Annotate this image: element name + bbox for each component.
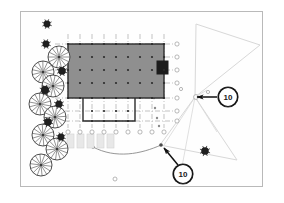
grid-bubble-bottom-6[interactable]: [138, 130, 142, 134]
grid-bubble-right-6[interactable]: [175, 119, 179, 123]
grid-bubble-bottom-5[interactable]: [126, 130, 130, 134]
column-node-3-0: [103, 43, 105, 45]
building-lower-extension: [83, 98, 135, 121]
callout-lower[interactable]: 10: [164, 148, 194, 185]
column-node-8-1: [163, 56, 165, 58]
column-node-5-2: [127, 69, 129, 71]
grid-bubble-right-4[interactable]: [175, 96, 179, 100]
callout-group[interactable]: 1010: [164, 86, 239, 184]
column-node-ext-2-1: [91, 120, 93, 122]
column-node-0-2: [67, 69, 69, 71]
column-node-5-3: [127, 82, 129, 84]
column-node-5-0: [127, 43, 129, 45]
column-node-3-3: [103, 82, 105, 84]
grid-bubble-bottom-2[interactable]: [90, 130, 94, 134]
tree-symbol-7: [30, 154, 52, 176]
drawing-canvas[interactable]: 1010: [21, 12, 262, 186]
column-node-0-3: [67, 82, 69, 84]
column-node-2-4: [91, 97, 93, 99]
column-node-2-1: [91, 56, 93, 58]
survey-guide-line-2: [195, 97, 217, 132]
column-node-3-2: [103, 69, 105, 71]
tree-trunk-7: [40, 164, 43, 167]
callout-upper[interactable]: 10: [197, 86, 239, 107]
site-plan-vector[interactable]: 1010: [21, 12, 262, 186]
grid-bubble-right-2[interactable]: [175, 68, 179, 72]
grid-bubble-right-3[interactable]: [175, 81, 179, 85]
column-node-4-3: [115, 82, 117, 84]
survey-point-6: [158, 125, 160, 127]
site-furniture-item-3: [97, 134, 104, 148]
callout-lower-leader-arrow: [164, 148, 178, 165]
column-node-4-2: [115, 69, 117, 71]
grid-bubble-bottom-4[interactable]: [114, 130, 118, 134]
column-node-4-4: [115, 97, 117, 99]
column-node-7-3: [151, 82, 153, 84]
survey-point-5: [156, 117, 158, 119]
shrub-symbol-0: [42, 19, 51, 28]
tree-symbol-6: [46, 138, 68, 160]
tree-trunk-6: [56, 148, 59, 151]
site-furniture-item-2: [87, 134, 94, 148]
column-node-1-1: [79, 56, 81, 58]
column-node-3-4: [103, 97, 105, 99]
curve-node-1: [159, 143, 163, 147]
tree-trunk-4: [54, 116, 57, 119]
grid-bubble-right-0[interactable]: [175, 42, 179, 46]
screenshot-root: 1010: [0, 0, 284, 203]
column-node-6-3: [139, 82, 141, 84]
grid-bubble-bottom-7[interactable]: [150, 130, 154, 134]
building-service-core: [157, 61, 168, 74]
grid-bubble-right-1[interactable]: [175, 55, 179, 59]
column-node-0-0: [67, 43, 69, 45]
grid-bubble-right-5[interactable]: [175, 109, 179, 113]
column-node-2-0: [91, 43, 93, 45]
column-node-8-0: [163, 43, 165, 45]
column-node-4-0: [115, 43, 117, 45]
survey-polygon-upper: [195, 24, 260, 97]
grid-bubble-bottom-0[interactable]: [66, 130, 70, 134]
column-node-1-2: [79, 69, 81, 71]
misc-marker-0: [113, 177, 117, 181]
building-footprint-group: [68, 44, 168, 121]
misc-marker-1: [179, 87, 182, 90]
site-furniture-item-0: [67, 134, 74, 148]
column-node-8-4: [163, 97, 165, 99]
shrub-symbol-1: [41, 39, 50, 48]
tree-trunk-1: [42, 71, 45, 74]
grid-bubble-bottom-3[interactable]: [102, 130, 106, 134]
column-node-4-1: [115, 56, 117, 58]
column-node-ext-4-0: [115, 110, 117, 112]
column-node-3-1: [103, 56, 105, 58]
column-node-7-1: [151, 56, 153, 58]
column-node-0-4: [67, 97, 69, 99]
column-node-7-4: [151, 97, 153, 99]
column-node-5-4: [127, 97, 129, 99]
column-node-1-4: [79, 97, 81, 99]
column-node-5-1: [127, 56, 129, 58]
site-furniture-item-1: [77, 134, 84, 148]
column-node-6-0: [139, 43, 141, 45]
column-node-2-3: [91, 82, 93, 84]
site-furniture-group: [67, 134, 114, 148]
grid-bubble-bottom-1[interactable]: [78, 130, 82, 134]
callout-lower-label: 10: [179, 170, 188, 179]
column-node-8-2: [163, 69, 165, 71]
column-node-ext-3-0: [103, 110, 105, 112]
tree-trunk-0: [58, 56, 61, 59]
column-node-ext-5-1: [127, 120, 129, 122]
callout-upper-label: 10: [224, 93, 233, 102]
grid-bubble-bottom-8[interactable]: [162, 130, 166, 134]
column-node-2-2: [91, 69, 93, 71]
column-node-7-0: [151, 43, 153, 45]
column-node-6-4: [139, 97, 141, 99]
column-node-ext-4-1: [115, 120, 117, 122]
column-node-7-2: [151, 69, 153, 71]
column-node-ext-5-0: [127, 110, 129, 112]
tree-trunk-2: [52, 85, 55, 88]
column-node-ext-2-0: [91, 110, 93, 112]
column-node-8-3: [163, 82, 165, 84]
site-furniture-item-4: [107, 134, 114, 148]
column-node-6-1: [139, 56, 141, 58]
tree-trunk-5: [42, 134, 45, 137]
